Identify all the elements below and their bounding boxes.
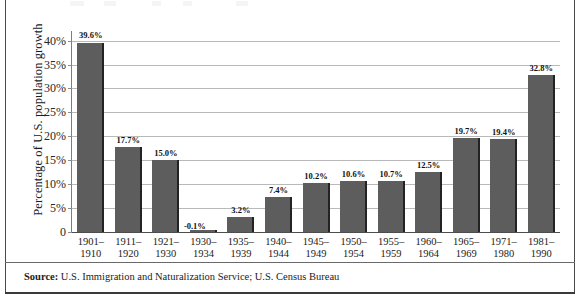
bar[interactable]: [77, 43, 104, 233]
y-axis-tick-mark: [68, 88, 72, 89]
bar-value-label: 17.7%: [104, 136, 153, 145]
bar[interactable]: [453, 138, 480, 232]
y-axis-tick-label: 25%: [32, 106, 66, 118]
frame-divider-rule: [5, 262, 575, 263]
y-axis-tick-label: 10%: [32, 178, 66, 190]
bar-value-label: 7.4%: [254, 186, 303, 195]
bar-value-label: 15.0%: [141, 149, 190, 158]
y-axis-tick-label: 20%: [32, 130, 66, 142]
bar-value-label: 32.8%: [517, 64, 566, 73]
bar-value-label: 39.6%: [66, 31, 115, 40]
bar-value-label: 3.2%: [216, 206, 265, 215]
source-text: U.S. Immigration and Naturalization Serv…: [61, 271, 340, 282]
bar[interactable]: [528, 75, 555, 232]
y-axis-tick-mark: [68, 65, 72, 66]
bar[interactable]: [378, 181, 405, 232]
bar[interactable]: [115, 147, 142, 232]
bar-value-label: -0.1%: [157, 222, 206, 231]
x-axis-line: [71, 232, 560, 233]
y-axis-tick-mark: [68, 208, 72, 209]
bar[interactable]: [265, 197, 292, 232]
frame-right-rule: [574, 0, 575, 293]
y-axis-tick-label: 35%: [32, 59, 66, 71]
y-axis-tick-mark: [68, 232, 72, 233]
bar[interactable]: [415, 172, 442, 232]
chart-page: Percentage of U.S. population growth 05%…: [0, 0, 582, 301]
bar-value-label: 10.7%: [367, 170, 416, 179]
frame-bottom-rule: [5, 292, 575, 294]
y-axis-tick-mark: [68, 41, 72, 42]
bar[interactable]: [303, 183, 330, 232]
y-axis-tick-mark: [68, 112, 72, 113]
y-axis-tick-label: 5%: [32, 202, 66, 214]
bar-value-label: 19.4%: [479, 128, 528, 137]
y-axis-tick-mark: [68, 136, 72, 137]
source-note: Source: U.S. Immigration and Naturalizat…: [24, 271, 339, 282]
bar[interactable]: [490, 139, 517, 232]
frame-left-rule: [5, 0, 6, 293]
gridline: [72, 88, 560, 89]
gridline: [72, 65, 560, 66]
plot-area: 05%10%15%20%25%30%35%40%39.6%1901– 19101…: [72, 31, 560, 232]
gridline: [72, 112, 560, 113]
y-axis-tick-label: 0: [32, 226, 66, 238]
source-label: Source:: [24, 271, 58, 282]
y-axis-tick-label: 30%: [32, 82, 66, 94]
cut-off-title-artifact: [70, 1, 310, 6]
bar[interactable]: [340, 181, 367, 232]
y-axis-tick-mark: [68, 184, 72, 185]
gridline: [72, 41, 560, 42]
y-axis-tick-mark: [68, 160, 72, 161]
y-axis-line: [71, 31, 72, 233]
y-axis-tick-label: 40%: [32, 35, 66, 47]
bar[interactable]: [227, 217, 254, 232]
y-axis-tick-label: 15%: [32, 154, 66, 166]
x-axis-tick-label: 1981– 1990: [519, 236, 563, 259]
gridline: [72, 160, 560, 161]
bar-value-label: 12.5%: [404, 161, 453, 170]
